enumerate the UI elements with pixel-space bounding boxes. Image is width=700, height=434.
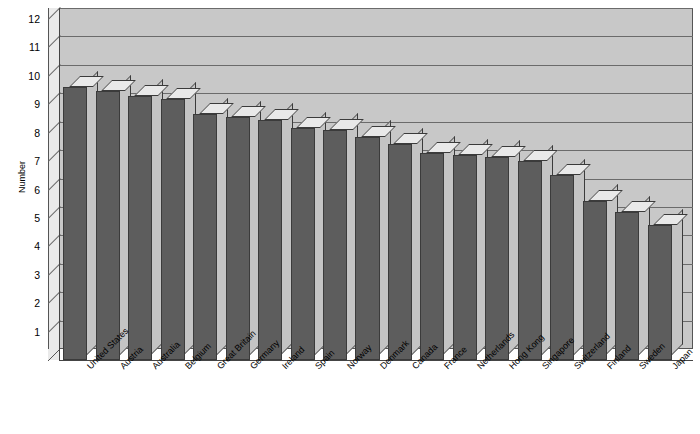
bar [161, 88, 185, 360]
x-tick-label: Finland [605, 364, 612, 371]
bar [485, 146, 509, 360]
x-tick-label: Austria [118, 364, 125, 371]
x-tick-label: Australia [150, 364, 157, 371]
bar [420, 142, 444, 360]
bar [128, 85, 152, 360]
bar-side-face [672, 209, 683, 355]
x-tick-label: Netherlands [475, 364, 482, 371]
bar-top-face [523, 150, 558, 161]
bar [96, 80, 120, 360]
bar-front-face [518, 161, 542, 360]
x-tick-label: France [442, 364, 449, 371]
bar [291, 117, 315, 360]
y-tick-label-11: 11 [14, 41, 40, 53]
bar-top-face [588, 190, 623, 201]
bar [518, 150, 542, 360]
y-tick-label-6: 6 [14, 184, 40, 196]
bar-series [48, 19, 682, 360]
x-tick-label: Great Britain [215, 364, 222, 371]
y-tick-label-9: 9 [14, 98, 40, 110]
y-tick-label-5: 5 [14, 212, 40, 224]
y-tick-label-8: 8 [14, 127, 40, 139]
x-tick-label: Norway [345, 364, 352, 371]
bar [388, 133, 412, 360]
bar [63, 76, 87, 360]
bar-front-face [226, 117, 250, 360]
bar-front-face [128, 96, 152, 360]
y-tick-label-10: 10 [14, 70, 40, 82]
x-tick-label: Belgium [183, 364, 190, 371]
y-axis-title: Number [17, 137, 27, 217]
bar-front-face [615, 212, 639, 360]
x-tick-label: Canada [410, 364, 417, 371]
x-tick-label: United States [85, 364, 92, 371]
x-tick-label: Denmark [378, 364, 385, 371]
x-tick-label: Ireland [280, 364, 287, 371]
y-tick-label-3: 3 [14, 269, 40, 281]
bar-front-face [258, 120, 282, 360]
x-tick-label: Sweden [637, 364, 644, 371]
x-tick-label: Germany [248, 364, 255, 371]
bar [453, 144, 477, 360]
bar [193, 103, 217, 360]
x-tick-label: Japan [670, 364, 677, 371]
bar [550, 164, 574, 360]
gridline-12 [59, 8, 693, 9]
y-tick-label-1: 1 [14, 326, 40, 338]
bar-front-face [193, 114, 217, 360]
plot-area [48, 8, 693, 360]
x-axis-category-labels: United StatesAustriaAustraliaBelgiumGrea… [48, 360, 693, 434]
bar [258, 109, 282, 360]
bar-front-face [291, 128, 315, 360]
x-tick-label: Singapore [540, 364, 547, 371]
bar-chart: Number 121110987654321 United StatesAust… [0, 0, 700, 434]
y-tick-label-12: 12 [14, 13, 40, 25]
bar-front-face [453, 155, 477, 360]
bar-front-face [323, 130, 347, 360]
bar-front-face [96, 91, 120, 360]
bar-top-face [621, 201, 656, 212]
bar [648, 214, 672, 360]
y-tick-label-7: 7 [14, 155, 40, 167]
bar-front-face [388, 144, 412, 360]
bar [226, 106, 250, 360]
x-tick-label: Switzerland [572, 364, 579, 371]
y-tick-label-2: 2 [14, 297, 40, 309]
bar-front-face [420, 153, 444, 360]
bar-top-face [556, 164, 591, 175]
bar-front-face [485, 157, 509, 360]
bar-front-face [355, 137, 379, 360]
y-tick-label-4: 4 [14, 240, 40, 252]
bar-front-face [550, 175, 574, 360]
x-tick-label: Hong Kong [507, 364, 514, 371]
bar-front-face [63, 87, 87, 360]
bar [615, 201, 639, 360]
bar [323, 119, 347, 360]
bar-front-face [161, 99, 185, 360]
bar [355, 126, 379, 360]
x-tick-label: Spain [313, 364, 320, 371]
